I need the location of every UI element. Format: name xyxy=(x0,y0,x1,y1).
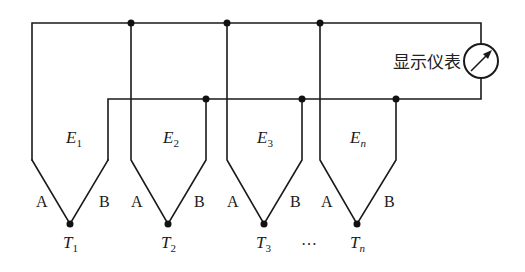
lead-b-label-3: B xyxy=(290,193,301,210)
thermocouple-1 xyxy=(32,160,108,224)
hot-junction-dot xyxy=(67,221,74,228)
thermocouple-parallel-diagram: 显示仪表 E1 E2 E3 En A B A B A B A B T1 T2 T… xyxy=(0,0,525,272)
meter-label: 显示仪表 xyxy=(393,52,461,72)
lead-a-label-1: A xyxy=(36,193,48,210)
junction-label-n: Tn xyxy=(350,233,365,254)
circuit-svg: 显示仪表 E1 E2 E3 En A B A B A B A B T1 T2 T… xyxy=(0,0,525,272)
junction-label-3: T3 xyxy=(256,233,271,254)
lead-a-label-2: A xyxy=(131,193,143,210)
junction-label-2: T2 xyxy=(161,233,176,254)
hot-junction-dot xyxy=(165,221,172,228)
bottom-bus-wire xyxy=(108,78,481,160)
emf-label-3: E3 xyxy=(256,128,273,149)
emf-label-n: En xyxy=(349,128,366,149)
ellipsis: … xyxy=(301,231,317,248)
junction-dot xyxy=(317,20,324,27)
lead-b-label-1: B xyxy=(99,193,110,210)
lead-b-label-n: B xyxy=(384,193,395,210)
junction-dot xyxy=(128,20,135,27)
junction-dot xyxy=(393,96,400,103)
junction-dot xyxy=(224,20,231,27)
hot-junction-dot xyxy=(354,221,361,228)
junction-label-1: T1 xyxy=(63,233,78,254)
gauge-meter-icon xyxy=(464,44,498,78)
lead-b-label-2: B xyxy=(194,193,205,210)
lead-a-label-n: A xyxy=(321,193,333,210)
junction-dot xyxy=(203,96,210,103)
emf-label-2: E2 xyxy=(162,128,179,149)
lead-a-label-3: A xyxy=(227,193,239,210)
hot-junction-dot xyxy=(261,221,268,228)
junction-dot xyxy=(299,96,306,103)
emf-label-1: E1 xyxy=(65,128,82,149)
